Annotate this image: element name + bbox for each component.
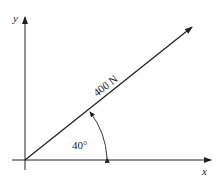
angle-label: 40° [72,139,87,151]
y-axis-label: y [12,12,18,24]
force-magnitude-label: 400 N [91,72,120,98]
force-vector-arrow [25,27,192,160]
angle-arc [90,112,107,158]
force-diagram: y x 40° 400 N [0,0,218,182]
x-axis-label: x [201,165,207,177]
